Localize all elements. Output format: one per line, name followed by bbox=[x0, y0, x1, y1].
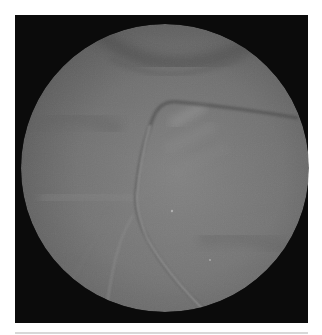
fundus-disc bbox=[20, 20, 310, 320]
divider-line bbox=[15, 332, 308, 334]
fundus-image bbox=[0, 0, 322, 335]
